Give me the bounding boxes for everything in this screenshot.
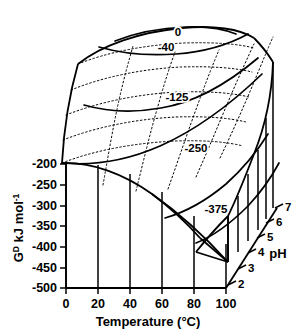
x-tick-label-5: 100	[216, 297, 237, 311]
ph-axis-title: pH	[269, 246, 286, 261]
surface-outline	[62, 27, 273, 262]
x-tick-label-2: 40	[123, 297, 137, 311]
svg-text:Temperature (°C): Temperature (°C)	[96, 314, 201, 329]
y-tick-label-0: -200	[32, 157, 57, 171]
y-title-sup2: -1	[11, 193, 21, 201]
y-tick-label-3: -350	[32, 219, 57, 233]
svg-text:GD kJ mol-1: GD kJ mol-1	[11, 193, 26, 262]
y-tick-label-1: -250	[32, 178, 57, 192]
y-axis-title: GD kJ mol-1	[11, 193, 26, 262]
figure-3d-surface-plot: -200 -250 -300 -350 -400 -450 -500 GD kJ…	[0, 0, 306, 334]
axis-drop-lines	[66, 164, 226, 288]
contour-label-250: -250	[184, 142, 207, 154]
x-tick-label-4: 80	[187, 297, 201, 311]
ph-tick-label-6: 6	[276, 216, 282, 228]
ph-tick-label-5: 5	[267, 231, 274, 243]
y-axis-tick-labels: -200 -250 -300 -350 -400 -450 -500	[32, 157, 57, 295]
y-title-base1: G	[11, 252, 26, 262]
surface-crease-a	[152, 194, 200, 238]
ph-tick-label-7: 7	[285, 201, 291, 213]
ph-tick-label-3: 3	[248, 262, 254, 274]
y-tick-label-5: -450	[32, 261, 57, 275]
contour-label-375: -375	[204, 203, 228, 215]
ph-tick-label-2: 2	[238, 278, 244, 290]
contour-label-0: 0	[175, 26, 181, 38]
contour-label-40: -40	[158, 41, 175, 53]
y-tick-label-4: -400	[32, 240, 57, 254]
y-tick-label-2: -300	[32, 199, 57, 213]
x-tick-label-1: 20	[91, 297, 105, 311]
contour-label-125: -125	[165, 91, 189, 103]
surface-front-edge	[62, 163, 228, 262]
x-tick-label-3: 60	[155, 297, 169, 311]
x-axis-title: Temperature (°C)	[96, 314, 201, 329]
y-title-base2: kJ mol	[11, 201, 26, 246]
x-axis-tick-labels: 0 20 40 60 80 100	[63, 297, 237, 311]
surface-plot-canvas: -200 -250 -300 -350 -400 -450 -500 GD kJ…	[0, 0, 306, 334]
x-tick-label-0: 0	[63, 297, 70, 311]
x-title-unit: (°C)	[177, 314, 200, 329]
x-title-main: Temperature	[96, 314, 174, 329]
ph-tick-label-4: 4	[258, 246, 265, 258]
y-tick-label-6: -500	[32, 281, 57, 295]
